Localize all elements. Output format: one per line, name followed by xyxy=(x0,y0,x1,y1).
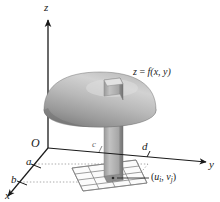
surface-eq-equals: = xyxy=(137,66,148,77)
origin-label: O xyxy=(31,137,40,149)
surface-equation-label: z = f(x, y) xyxy=(133,67,171,77)
y-tick-label-d: d xyxy=(142,141,148,152)
sample-point-label: (ui, vj) xyxy=(151,172,176,184)
surface-eq-args: (x, y) xyxy=(150,66,171,77)
x-tick-label-a: a xyxy=(26,156,32,167)
y-axis-label: y xyxy=(209,159,214,170)
x-axis-label: x xyxy=(5,190,10,201)
z-axis-label: z xyxy=(44,2,48,13)
riemann-sum-figure: z y x O a b c d z = f(x, y) (ui, vj) xyxy=(0,0,220,202)
surface-dome xyxy=(44,72,156,127)
sample-point-close-paren: ) xyxy=(173,171,176,182)
figure-canvas xyxy=(0,0,220,202)
x-tick-label-b: b xyxy=(11,174,17,185)
y-axis xyxy=(48,146,206,162)
y-tick-label-c: c xyxy=(92,140,96,149)
